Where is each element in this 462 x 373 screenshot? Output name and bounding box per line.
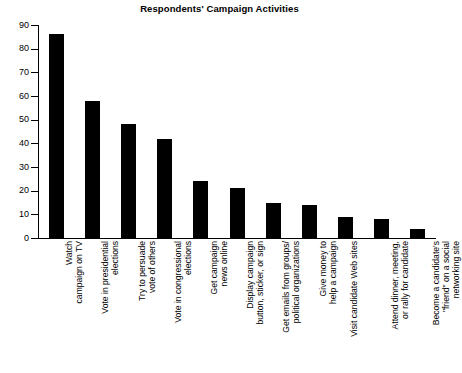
y-axis-tick-label: 30 — [3, 163, 29, 172]
x-axis-tick-label: Get campaign news online — [209, 241, 229, 369]
bar — [338, 217, 353, 238]
bar — [49, 34, 64, 238]
y-axis-tick-label: 50 — [3, 115, 29, 124]
x-axis-tick-labels: Watch campaign on TVVote in presidential… — [38, 241, 436, 373]
y-axis-tick — [31, 214, 38, 215]
y-axis-tick-labels: 0102030405060708090 — [0, 0, 29, 373]
y-axis-tick-label: 90 — [3, 21, 29, 30]
y-axis-tick — [31, 49, 38, 50]
bar — [230, 188, 245, 238]
y-axis-tick-label: 10 — [3, 210, 29, 219]
bars-layer — [38, 25, 436, 238]
x-axis-tick-label: Vote in presidential elections — [100, 241, 120, 369]
bar — [193, 181, 208, 238]
x-axis-line — [38, 238, 436, 239]
x-axis-tick-label: Give money to help a campaign — [318, 241, 338, 369]
bar — [302, 205, 317, 238]
x-axis-tick-label: Attend dinner, meeting, or rally for can… — [390, 241, 410, 369]
y-axis-tick — [31, 238, 38, 239]
y-axis-tick — [31, 167, 38, 168]
x-axis-tick-label: Visit candidate Web sites — [349, 241, 359, 369]
bar — [157, 139, 172, 238]
x-axis-tick-label: Get emails from groups/ political organi… — [281, 241, 301, 369]
y-axis-tick-label: 60 — [3, 92, 29, 101]
y-axis-tick — [31, 120, 38, 121]
y-axis-tick-label: 40 — [3, 139, 29, 148]
x-axis-tick-label: Watch campaign on TV — [64, 241, 84, 369]
bar — [121, 124, 136, 238]
y-axis-tick — [31, 72, 38, 73]
y-axis-tick-label: 70 — [3, 68, 29, 77]
y-axis-tick-label: 80 — [3, 44, 29, 53]
x-axis-tick-label: Vote in congressional elections — [173, 241, 193, 369]
y-axis-tick-label: 20 — [3, 186, 29, 195]
y-axis-tick — [31, 143, 38, 144]
bar — [410, 229, 425, 238]
y-axis-tick-label: 0 — [3, 234, 29, 243]
x-axis-tick-label: Become a candidate's "friend" on a socia… — [431, 241, 462, 369]
x-axis-tick-label: Try to persuade vote of others — [137, 241, 157, 369]
bar — [374, 219, 389, 238]
y-axis-tick — [31, 191, 38, 192]
chart-title: Respondents' Campaign Activities — [0, 3, 439, 14]
x-axis-tick-label: Display campaign button, sticker, or sig… — [245, 241, 265, 369]
bar — [85, 101, 100, 238]
y-axis-tick — [31, 96, 38, 97]
bar — [266, 203, 281, 239]
y-axis-tick — [31, 25, 38, 26]
